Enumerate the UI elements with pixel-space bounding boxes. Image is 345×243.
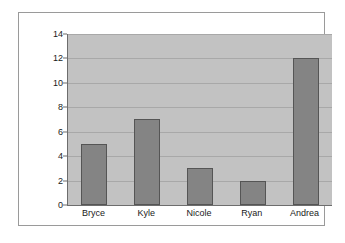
bar bbox=[240, 181, 266, 205]
y-tick-label: 12 bbox=[53, 54, 63, 63]
x-tick-label: Kyle bbox=[120, 209, 173, 218]
y-tick-label: 10 bbox=[53, 79, 63, 88]
y-tick-mark bbox=[63, 83, 67, 84]
bar-slot bbox=[121, 34, 174, 205]
bar-slot bbox=[68, 34, 121, 205]
bar bbox=[293, 58, 319, 205]
x-tick-label: Nicole bbox=[173, 209, 226, 218]
y-tick-mark bbox=[63, 34, 67, 35]
x-tick-label: Bryce bbox=[67, 209, 120, 218]
x-tick-label: Ryan bbox=[225, 209, 278, 218]
figure-frame: 14121086420 BryceKyleNicoleRyanAndrea bbox=[18, 12, 325, 226]
bar bbox=[187, 168, 213, 205]
y-tick-mark bbox=[63, 156, 67, 157]
bar-chart-figure: 14121086420 BryceKyleNicoleRyanAndrea bbox=[0, 0, 345, 243]
y-tick-mark bbox=[63, 181, 67, 182]
y-tick-label: 14 bbox=[53, 30, 63, 39]
y-axis: 14121086420 bbox=[37, 34, 63, 205]
y-tick-mark bbox=[63, 132, 67, 133]
bar-slot bbox=[174, 34, 227, 205]
bar bbox=[134, 119, 160, 205]
bar bbox=[81, 144, 107, 205]
bar-slot bbox=[279, 34, 332, 205]
bar-series bbox=[68, 34, 332, 205]
x-tick-label: Andrea bbox=[278, 209, 331, 218]
y-tick-mark bbox=[63, 58, 67, 59]
y-tick-mark bbox=[63, 205, 67, 206]
bar-slot bbox=[226, 34, 279, 205]
plot-area bbox=[67, 34, 332, 206]
x-axis: BryceKyleNicoleRyanAndrea bbox=[67, 209, 331, 218]
y-tick-mark bbox=[63, 107, 67, 108]
